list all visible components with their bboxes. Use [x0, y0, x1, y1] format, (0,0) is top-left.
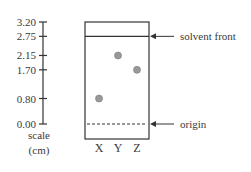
spot-z	[134, 66, 141, 73]
solvent-front-arrowhead-icon	[150, 33, 156, 39]
scale-unit-label: (cm)	[29, 144, 50, 157]
scale-label: scale	[28, 129, 50, 141]
origin-arrowhead-icon	[150, 121, 156, 127]
scale-tick-label: 0.80	[17, 93, 37, 105]
spot-x	[96, 95, 103, 102]
scale-tick-label: 2.15	[17, 49, 37, 61]
lane-label-z: Z	[133, 141, 140, 155]
origin-label: origin	[180, 118, 207, 130]
scale-tick-label: 1.70	[17, 64, 37, 76]
lane-label-y: Y	[114, 141, 123, 155]
chromatogram-diagram: 3.202.752.151.700.800.00 scale (cm) XYZ …	[0, 0, 251, 172]
scale-tick-label: 2.75	[17, 30, 37, 42]
scale-tick-label: 3.20	[17, 16, 37, 28]
lane-label-x: X	[95, 141, 104, 155]
solvent-front-label: solvent front	[180, 30, 236, 42]
spot-y	[115, 52, 122, 59]
tlc-plate	[85, 22, 149, 139]
